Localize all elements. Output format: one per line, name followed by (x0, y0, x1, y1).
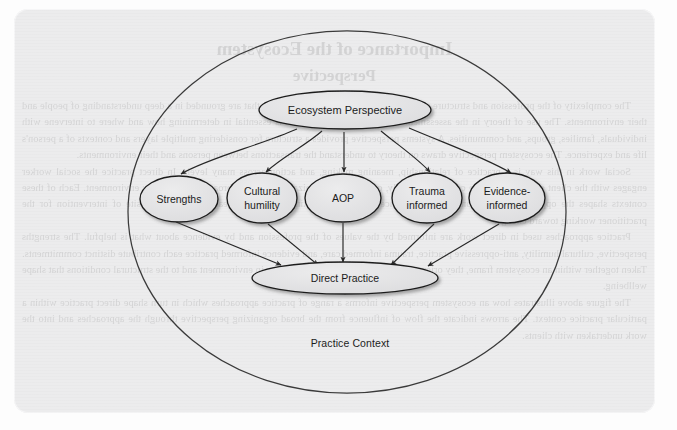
node-trauma-informed (392, 173, 462, 223)
arrow-ecosystem-to-strengths (181, 129, 297, 174)
arrow-cultural-humility-to-direct-practice (268, 224, 318, 265)
node-cultural-humility (227, 173, 297, 223)
arrow-ecosystem-to-trauma-informed (381, 131, 430, 172)
arrow-ecosystem-to-cultural-humility (266, 131, 322, 172)
arrow-strengths-to-direct-practice (176, 222, 281, 265)
practice-context-label: Practice Context (250, 337, 450, 349)
node-direct-practice (252, 262, 438, 294)
node-evidence-informed (469, 173, 545, 223)
diagram-canvas (0, 0, 677, 430)
node-aop (305, 174, 381, 222)
arrow-trauma-informed-to-direct-practice (391, 224, 434, 265)
scanned-textbook-page: Importance of the Ecosystem Perspective … (0, 0, 677, 430)
node-strengths (140, 176, 218, 222)
node-ecosystem-perspective (259, 91, 431, 129)
arrow-evidence-informed-to-direct-practice (428, 224, 499, 266)
